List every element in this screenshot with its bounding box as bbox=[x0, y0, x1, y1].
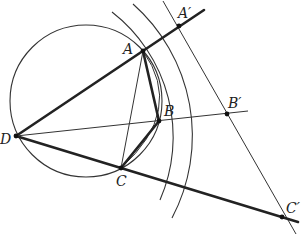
point-b-prime bbox=[225, 112, 230, 117]
segment-b-c bbox=[121, 121, 159, 168]
ray-d-c bbox=[16, 136, 298, 222]
point-a bbox=[141, 49, 146, 54]
label-a: A bbox=[121, 41, 133, 57]
arc-a-to-c bbox=[121, 51, 160, 168]
transversal-line bbox=[163, 1, 296, 234]
point-b bbox=[157, 119, 162, 124]
label-b-prime: B′ bbox=[227, 95, 242, 111]
point-d bbox=[14, 134, 19, 139]
segment-a-c bbox=[121, 51, 143, 168]
label-d: D bbox=[0, 131, 11, 147]
point-a-prime bbox=[177, 24, 182, 29]
geometry-figure: A B C D A′ B′ C′ bbox=[0, 0, 304, 242]
label-a-prime: A′ bbox=[176, 5, 192, 21]
label-c: C bbox=[116, 173, 127, 189]
label-c-prime: C′ bbox=[286, 200, 301, 216]
ray-d-b bbox=[16, 111, 248, 136]
point-c bbox=[119, 166, 124, 171]
circumcircle bbox=[10, 25, 162, 177]
label-b: B bbox=[163, 103, 174, 119]
point-c-prime bbox=[280, 215, 285, 220]
